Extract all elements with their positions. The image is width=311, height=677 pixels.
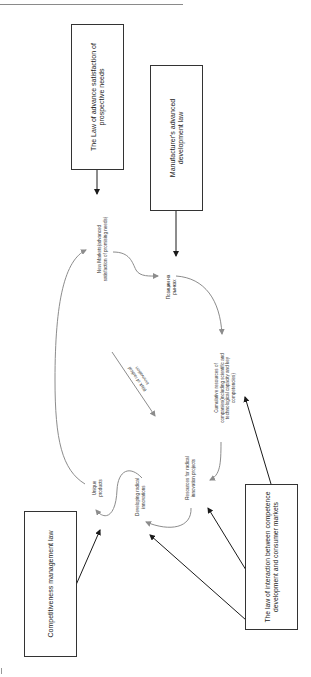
box-label: The Law of advance satisfaction of prosp… [89, 32, 106, 162]
node-unique-products: Unique products [92, 473, 104, 503]
box-manufacturer-development: Manufacturer's advanced development law [150, 65, 203, 211]
node-developing-radical: Developing radical innovations [135, 477, 153, 517]
page-marker [1, 668, 2, 674]
box-competence-interaction: The law of interaction between competenc… [245, 484, 298, 630]
box-label: Manufacturer's advanced development law [168, 83, 185, 193]
arrow-competence-to-resources [208, 508, 246, 570]
box-label: The law of interaction between competenc… [263, 488, 279, 626]
arrow-competence-to-cumulative [245, 397, 271, 484]
flow-newmarkets-to-position [113, 252, 158, 276]
arrow-competence-to-developing [150, 535, 246, 620]
flow-cumulative-to-resources [210, 442, 221, 480]
box-label: Competitiveness management law [46, 514, 54, 654]
box-law-prospective-needs: The Law of advance satisfaction of prosp… [71, 24, 124, 170]
flow-unique-to-newmarkets [55, 250, 86, 484]
node-cumulative-resources: Cumulative resources of companies(includ… [214, 344, 234, 432]
node-market-position: Позиции на рынках [166, 270, 178, 304]
node-new-markets: New Markets(advanced satisfaction of pro… [97, 213, 111, 285]
flow-position-to-cumulative [176, 276, 222, 334]
arrow-competitiveness [76, 530, 100, 585]
node-resources-radical: Resources for radical innovation project… [185, 454, 201, 502]
box-competitiveness-management: Competitiveness management law [24, 511, 77, 657]
